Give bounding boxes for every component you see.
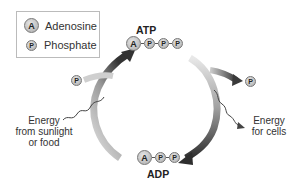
phosphate-icon: P xyxy=(26,40,37,51)
phosphate-out-icon: P xyxy=(245,76,256,87)
adp-title: ADP xyxy=(147,168,169,180)
energy-use-label: Energy for cells xyxy=(244,115,294,137)
energy-source-label: Energy from sunlight or food xyxy=(12,115,76,148)
phosphate-icon: P xyxy=(158,38,169,49)
phosphate-icon: P xyxy=(172,38,183,49)
atp-title: ATP xyxy=(136,24,156,36)
phosphate-icon: P xyxy=(155,152,166,163)
phosphate-icon: P xyxy=(144,38,155,49)
legend-item-phosphate: P Phosphate xyxy=(26,39,97,51)
legend-item-adenosine: A Adenosine xyxy=(24,18,97,33)
adenosine-icon: A xyxy=(137,150,152,165)
left-cycle-arrow xyxy=(94,54,128,158)
phosphate-icon: P xyxy=(169,152,180,163)
legend: A Adenosine P Phosphate xyxy=(16,11,100,58)
adp-molecule: A P P xyxy=(137,150,180,165)
phosphate-out-arrow xyxy=(210,70,236,80)
legend-label: Phosphate xyxy=(44,39,97,51)
legend-label: Adenosine xyxy=(45,20,97,32)
atp-molecule: A P P P xyxy=(126,36,183,51)
phosphate-in-icon: P xyxy=(71,75,82,86)
adenosine-icon: A xyxy=(126,36,141,51)
adenosine-icon: A xyxy=(24,18,39,33)
